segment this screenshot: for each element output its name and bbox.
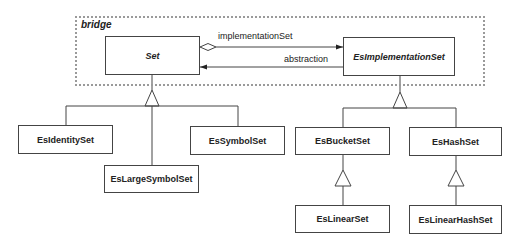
class-es-linear-hash-set: EsLinearHashSet <box>409 205 502 234</box>
abstraction-label: abstraction <box>284 54 328 64</box>
class-es-symbol-set: EsSymbolSet <box>190 126 285 155</box>
class-es-bucket-set: EsBucketSet <box>295 127 390 155</box>
bridge-package-label: bridge <box>81 19 112 30</box>
class-es-large-symbol-set: EsLargeSymbolSet <box>104 165 199 193</box>
class-es-implementation-set: EsImplementationSet <box>343 37 455 76</box>
bucket-generalization <box>335 155 351 205</box>
class-es-hash-set: EsHashSet <box>409 127 502 156</box>
class-es-linear-set: EsLinearSet <box>295 205 390 233</box>
hash-generalization <box>448 156 464 205</box>
implementation-set-label: implementationSet <box>218 31 293 41</box>
class-es-identity-set: EsIdentitySet <box>18 125 113 154</box>
class-set: Set <box>105 36 200 75</box>
